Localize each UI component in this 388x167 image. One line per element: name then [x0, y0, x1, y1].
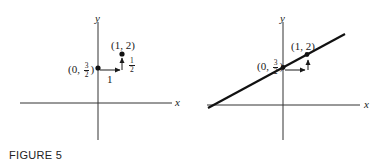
left-point-b: [119, 51, 124, 56]
right-point-b-label: (1, 2): [291, 41, 315, 52]
left-run-label: 1: [107, 74, 113, 85]
figure-caption: FIGURE 5: [9, 149, 62, 161]
right-panel: [207, 22, 360, 140]
left-x-axis-label: x: [175, 97, 180, 108]
fraction-three-halves: 32: [84, 62, 90, 78]
figure: y x (1, 2) (0, 32) 1 12 y x (1, 2) (0, 3…: [0, 0, 388, 167]
right-point-a-label: (0, 32): [257, 59, 283, 75]
left-point-a-label: (0, 32): [68, 62, 94, 78]
left-point-b-label: (1, 2): [111, 40, 135, 51]
left-point-a: [95, 65, 100, 70]
left-panel: [20, 22, 172, 140]
right-point-b: [305, 52, 310, 57]
left-y-axis-label: y: [95, 13, 100, 24]
figure-graphics: [0, 0, 388, 167]
right-x-axis-label: x: [364, 99, 369, 110]
left-rise-label: 12: [128, 57, 136, 73]
right-y-axis-label: y: [280, 13, 285, 24]
